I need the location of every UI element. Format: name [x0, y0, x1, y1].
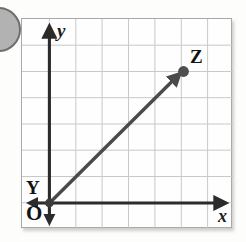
figure-canvas: y x Y O Z [0, 0, 246, 242]
point-z-dot [178, 66, 189, 77]
point-label-z: Z [190, 47, 203, 66]
point-label-origin: O [26, 203, 42, 224]
point-o-dot [45, 199, 54, 208]
x-axis-label: x [218, 207, 227, 225]
point-label-y: Y [26, 178, 40, 197]
circle-callout-bubble-icon [0, 7, 21, 52]
y-axis-label: y [57, 21, 65, 40]
ray-o-to-z [51, 75, 180, 203]
